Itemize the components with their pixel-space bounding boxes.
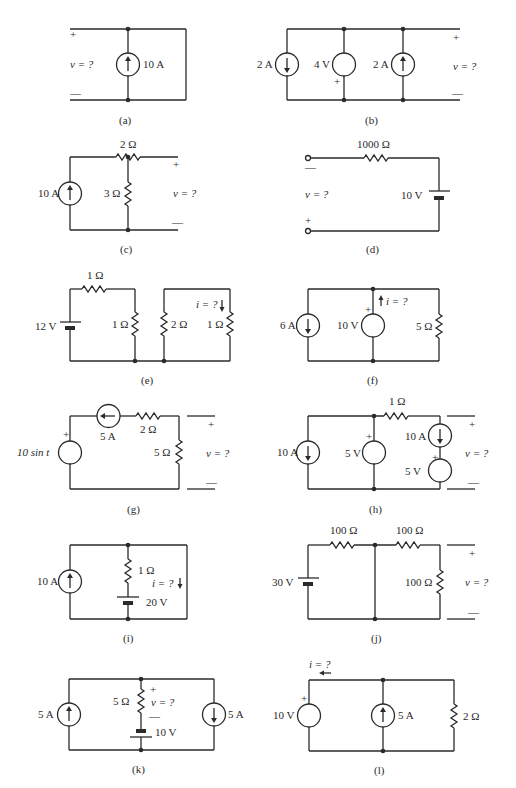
unknown-label: i = ? — [309, 658, 331, 670]
unknown-label: v = ? — [151, 696, 175, 708]
resistor-icon — [125, 559, 131, 583]
current-source-left-icon — [97, 405, 120, 428]
unknown-label: v = ? — [206, 447, 230, 459]
resistor-icon — [330, 542, 354, 548]
r1-label: 1000 Ω — [357, 138, 390, 150]
unknown-label: i = ? — [386, 295, 408, 307]
plus-sign: + — [453, 31, 459, 43]
r2-label: 100 Ω — [396, 524, 423, 536]
r1-label: 1 Ω — [389, 395, 405, 407]
source3-label: 2 A — [373, 58, 389, 70]
circuit-g: 10 sin t + 5 A 2 Ω 5 Ω + v = ? — (g) — [17, 405, 230, 517]
source2-label: 5 V — [345, 447, 361, 459]
unknown-label: v = ? — [70, 58, 94, 70]
circuit-j: 30 V 100 Ω 100 Ω 100 Ω + v = ? — (j) — [272, 524, 489, 645]
plus-sign: + — [469, 547, 475, 559]
plus-sign: + — [305, 214, 311, 226]
circuit-e: 12 V 1 Ω 1 Ω 2 Ω 1 Ω i = ? (e) — [35, 269, 233, 387]
source-label: 10 A — [38, 187, 59, 199]
minus-sign: — — [451, 87, 464, 99]
current-source-up-icon — [58, 703, 81, 726]
circuit-figure: 10 A + v = ? — (a) 2 A 4 V + 2 A — [0, 0, 516, 788]
current-source-down-icon — [203, 703, 226, 726]
r2-label: 1 Ω — [112, 318, 128, 330]
resistor-icon — [138, 689, 144, 713]
r1-label: 2 Ω — [120, 138, 136, 150]
r1-label: 5 Ω — [113, 695, 129, 707]
battery-label: 10 V — [401, 189, 423, 201]
unknown-label: i = ? — [196, 298, 218, 310]
plus-sign: + — [334, 75, 340, 87]
resistor-icon — [451, 704, 457, 728]
current-source-up-icon — [392, 53, 415, 76]
source3-label: 10 A — [405, 430, 426, 442]
current-source-down-icon — [297, 314, 320, 337]
source2-label: 4 V — [314, 58, 330, 70]
caption: (c) — [120, 243, 133, 256]
r1-label: 1 Ω — [138, 564, 154, 576]
circuit-i: 10 A 1 Ω 20 V i = ? (i) — [37, 543, 187, 645]
arrow-down-icon — [178, 578, 183, 589]
plus-sign: + — [366, 430, 372, 442]
resistor-icon — [364, 155, 388, 161]
resistor-icon — [437, 570, 443, 594]
caption: (j) — [371, 632, 382, 645]
source2-label: 10 V — [337, 319, 359, 331]
minus-sign: — — [467, 606, 480, 618]
plus-sign: + — [365, 303, 371, 315]
current-source-up-icon — [59, 570, 82, 593]
voltage-source-icon — [362, 314, 385, 337]
resistor-icon — [396, 542, 420, 548]
minus-sign: — — [304, 161, 317, 173]
terminal-icon — [306, 229, 311, 234]
plus-sign: + — [301, 692, 307, 704]
unknown-label: i = ? — [152, 577, 174, 589]
unknown-label: v = ? — [465, 576, 489, 588]
r4-label: 1 Ω — [207, 318, 223, 330]
resistor-icon — [125, 182, 131, 206]
source-label: 10 A — [37, 575, 58, 587]
current-source-down-icon — [297, 441, 320, 464]
unknown-label: v = ? — [305, 188, 329, 200]
voltage-source-icon — [298, 704, 321, 727]
current-source-up-icon — [117, 53, 140, 76]
plus-sign: + — [150, 683, 156, 695]
terminal-icon — [306, 156, 311, 161]
source1-label: 10 A — [277, 446, 298, 458]
current-source-down-icon — [429, 424, 452, 447]
battery-icon — [136, 729, 146, 733]
minus-sign: — — [205, 476, 218, 488]
source1-label: 6 A — [280, 319, 296, 331]
caption: (h) — [369, 503, 382, 516]
plus-sign: + — [173, 158, 179, 170]
caption: (l) — [374, 764, 385, 777]
r3-label: 100 Ω — [405, 576, 432, 588]
circuit-k: 5 A 5 Ω + v = ? — 10 V 5 A (k) — [38, 677, 244, 776]
caption: (a) — [119, 114, 132, 127]
current-source-up-icon — [372, 704, 395, 727]
unknown-label: v = ? — [465, 447, 489, 459]
voltage-source-icon — [59, 441, 82, 464]
r1-label: 100 Ω — [330, 524, 357, 536]
r3-label: 2 Ω — [171, 318, 187, 330]
r1-label: 2 Ω — [140, 423, 156, 435]
resistor-icon — [436, 314, 442, 338]
circuit-c: 10 A 2 Ω 3 Ω + v = ? — (c) — [38, 138, 197, 256]
source2-label: 5 A — [228, 708, 244, 720]
source1-label: 10 sin t — [17, 446, 50, 458]
caption: (d) — [366, 243, 379, 256]
source1-label: 5 A — [38, 708, 54, 720]
arrow-up-icon — [379, 295, 384, 306]
battery-label: 10 V — [155, 726, 177, 738]
resistor-icon — [227, 312, 233, 336]
minus-sign: — — [171, 216, 184, 228]
plus-sign: + — [70, 28, 76, 40]
arrow-left-icon — [319, 671, 331, 676]
battery-label: 12 V — [35, 320, 57, 332]
voltage-source-icon — [363, 441, 386, 464]
r2-label: 3 Ω — [104, 187, 120, 199]
source1-label: 2 A — [257, 58, 273, 70]
caption: (f) — [367, 374, 378, 387]
circuit-l: 10 V + i = ? 5 A 2 Ω (l) — [273, 658, 479, 777]
source1-label: 10 V — [273, 709, 295, 721]
